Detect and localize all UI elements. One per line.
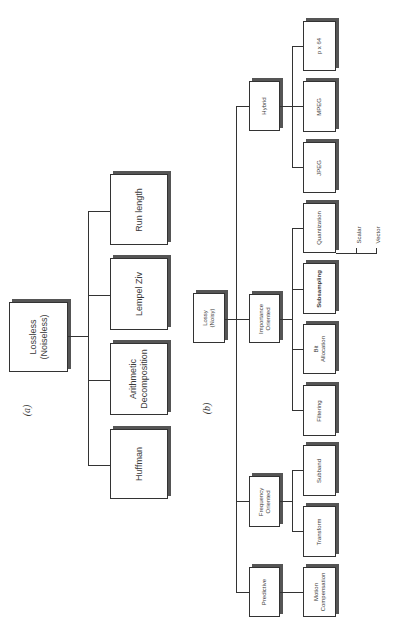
subband-node: Subband — [303, 445, 336, 496]
connector — [292, 470, 293, 532]
connector — [292, 289, 303, 290]
connector — [292, 470, 303, 471]
node-line2: Allocation — [320, 336, 326, 362]
px64-node: p x 64 — [303, 21, 336, 71]
node-line1: Quantization — [316, 211, 322, 245]
node-line1: Hybrid — [261, 97, 267, 114]
connector — [236, 319, 249, 320]
run-length-node: Run length — [110, 174, 168, 245]
connector — [292, 410, 303, 411]
node-line1: Arithmetic — [128, 359, 138, 399]
lossless-node: Lossless(Noiseless) — [9, 302, 68, 372]
node-line2: Compensation — [320, 573, 326, 612]
node-line1: Lempel Ziv — [134, 272, 144, 316]
connector — [88, 380, 110, 381]
connector — [280, 319, 292, 320]
connector — [292, 46, 303, 47]
connector — [356, 248, 357, 254]
node-line1: Importance — [257, 303, 263, 333]
connector — [88, 465, 110, 466]
predictive-node: Predictive — [249, 567, 280, 617]
connector — [292, 106, 303, 107]
node-line1: Predictive — [261, 579, 267, 605]
frequency-oriented-node: FrequencyOriented — [249, 476, 280, 527]
arithmetic-decomposition-node: ArithmeticDecomposition — [110, 343, 168, 415]
node-line1: Motion — [312, 583, 318, 601]
huffman-node: Huffman — [110, 429, 168, 499]
connector — [68, 336, 88, 337]
node-line2: (Noiseless) — [39, 314, 49, 359]
scalar-label: Scalar — [356, 226, 362, 243]
node-line2: Oriented — [265, 307, 271, 330]
node-line1: Transform — [316, 518, 322, 545]
lempel-ziv-node: Lempel Ziv — [110, 258, 168, 330]
node-line2: (Noisy) — [209, 309, 215, 328]
connector — [236, 501, 249, 502]
panel-b-label: (b) — [201, 403, 212, 415]
hybrid-node: Hybrid — [249, 81, 280, 131]
node-line2: Decomposition — [139, 349, 149, 409]
node-line1: Bit — [312, 345, 318, 352]
connector — [236, 106, 249, 107]
connector — [236, 106, 237, 593]
node-line1: MPEG — [316, 98, 322, 116]
node-line1: Lossless — [28, 319, 38, 354]
bit-allocation-node: BitAllocation — [303, 324, 336, 374]
connector — [88, 211, 89, 466]
node-line1: JPEG — [316, 160, 322, 176]
connector — [292, 531, 303, 532]
connector — [292, 46, 293, 168]
node-line1: Lossy — [202, 310, 208, 326]
quantization-node: Quantization — [303, 203, 336, 253]
connector — [292, 167, 303, 168]
node-line1: Run length — [134, 188, 144, 232]
connector — [88, 211, 110, 212]
importance-oriented-node: ImportanceOriented — [249, 294, 280, 343]
connector — [292, 228, 303, 229]
motion-compensation-node: MotionCompensation — [303, 567, 336, 617]
mpeg-node: MPEG — [303, 81, 336, 132]
filtering-node: Filtering — [303, 385, 336, 436]
node-line1: Frequency — [257, 487, 263, 515]
connector — [88, 295, 110, 296]
node-line1: Subband — [316, 458, 322, 482]
connector — [280, 106, 292, 107]
connector — [280, 501, 292, 502]
lossy-node: Lossy(Noisy) — [193, 293, 225, 343]
node-line2: Oriented — [265, 490, 271, 513]
connector — [376, 248, 377, 254]
connector — [236, 592, 249, 593]
transform-node: Transform — [303, 506, 336, 557]
node-line1: Huffman — [134, 447, 144, 481]
connector — [280, 592, 303, 593]
node-line1: p x 64 — [316, 38, 322, 54]
node-line1: Subsampling — [316, 270, 322, 308]
jpeg-node: JPEG — [303, 142, 336, 193]
connector — [292, 349, 303, 350]
panel-a-label: (a) — [21, 405, 32, 417]
connector — [292, 228, 293, 411]
vector-label: Vector — [375, 226, 381, 243]
node-line1: Filtering — [316, 400, 322, 421]
subsampling-node: Subsampling — [303, 263, 336, 314]
